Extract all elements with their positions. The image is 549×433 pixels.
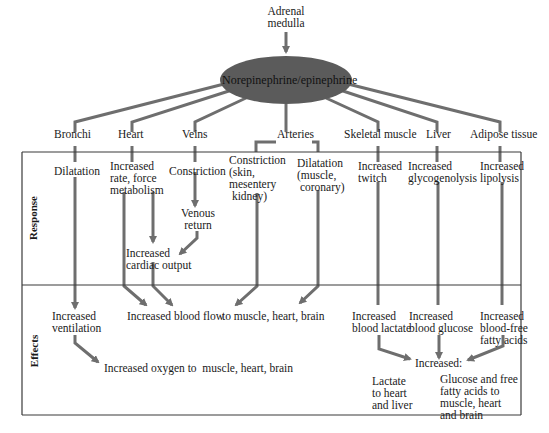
effect-ventilation: Increased ventilation [52,310,101,334]
target-arteries: Arteries [277,128,314,140]
target-liver: Liver [426,128,451,140]
diagram-canvas: Adrenal medulla Norepinephrine/epinephri… [0,0,549,433]
hormone-label: Norepinephrine/epinephrine [222,73,350,88]
response-bronchi: Dilatation [54,165,100,177]
effect-increased: Increased: [415,357,462,369]
effect-blood-lactate: Increased blood lactate [352,310,411,334]
target-veins: Veins [182,128,208,140]
effect-blood-flow: Increased blood flow [127,310,224,322]
target-bronchi: Bronchi [54,128,91,140]
target-heart: Heart [118,128,144,140]
response-veins: Constriction [169,165,226,177]
response-heart: Increased rate, force metabolism [110,160,164,196]
response-venous-return: Venous return [178,207,218,231]
target-adipose: Adipose tissue [470,128,537,140]
response-arteries-dilatation: Dilatation (muscle, coronary) [297,157,345,193]
effect-blood-glucose: Increased blood glucose [409,310,473,334]
section-response-label: Response [27,193,39,243]
effect-blood-flow-target: to muscle, heart, brain [222,310,325,322]
target-skeletal-muscle: Skeletal muscle [344,128,417,140]
response-arteries-constriction: Constriction (skin, mesentery kidney) [229,154,286,202]
response-liver: Increased glycogenolysis [408,160,477,184]
response-skeletal-muscle: Increased twitch [358,160,402,184]
section-effects-label: Effects [28,331,40,371]
effect-fatty-acids: Increased blood-free fatty acids [480,310,528,346]
response-cardiac-output: Increased cardiac output [126,247,191,271]
effect-lactate-dest: Lactate to heart and liver [372,375,413,411]
effect-glucose-dest: Glucose and free fatty acids to muscle, … [440,373,518,421]
response-adipose: Increased lipolysis [480,160,524,184]
source-label: Adrenal medulla [256,5,316,29]
effect-oxygen: Increased oxygen to muscle, heart, brain [104,362,293,374]
